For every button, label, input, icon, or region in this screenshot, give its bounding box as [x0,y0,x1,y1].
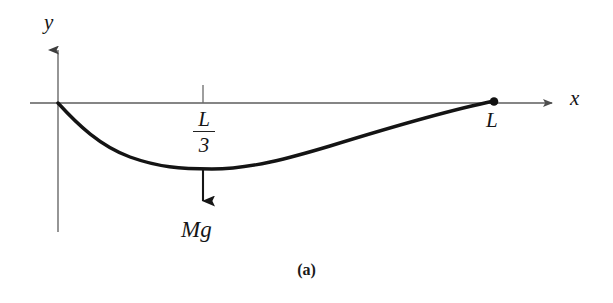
panel-caption: (a) [0,261,613,279]
figure-container: y x L 3 L Mg (a) [0,0,613,303]
fraction-denominator: 3 [191,134,217,156]
endpoint-label-L: L [486,110,498,131]
endpoint-marker-L [490,97,499,106]
fraction-bar [193,131,215,132]
y-axis-label: y [44,12,53,33]
deflection-curve [58,101,494,169]
force-label-Mg: Mg [181,218,212,241]
fraction-numerator: L [191,108,217,130]
tick-label-L-over-3: L 3 [191,108,217,156]
beam-deflection-diagram [0,0,613,303]
x-axis-label: x [570,88,579,109]
